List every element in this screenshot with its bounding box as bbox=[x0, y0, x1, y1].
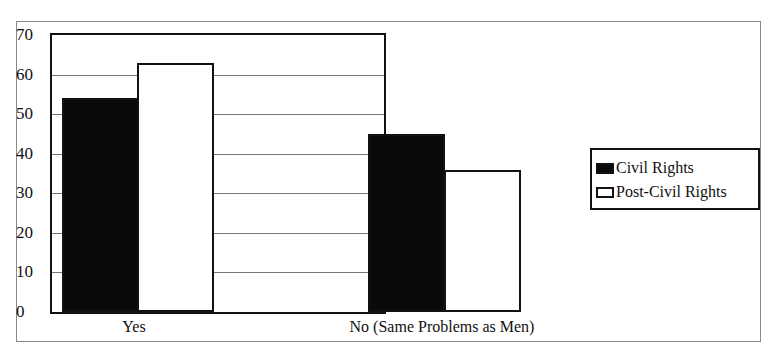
y-tick-label: 30 bbox=[16, 184, 46, 201]
legend: Civil Rights Post-Civil Rights bbox=[590, 148, 760, 210]
legend-swatch-post-civil-rights bbox=[596, 187, 614, 198]
y-tick-label: 40 bbox=[16, 145, 46, 162]
gridline bbox=[52, 75, 384, 76]
legend-item-civil-rights: Civil Rights bbox=[596, 156, 758, 180]
y-tick-label: 60 bbox=[16, 66, 46, 83]
x-tick-label: Yes bbox=[0, 318, 284, 336]
x-tick-label: No (Same Problems as Men) bbox=[292, 318, 592, 336]
bar-civil-rights bbox=[62, 98, 139, 312]
y-tick-label: 50 bbox=[16, 105, 46, 122]
y-tick-label: 70 bbox=[16, 26, 46, 43]
y-tick-label: 10 bbox=[16, 263, 46, 280]
legend-item-post-civil-rights: Post-Civil Rights bbox=[596, 180, 758, 204]
bar-post-civil-rights bbox=[137, 63, 214, 312]
legend-label: Civil Rights bbox=[616, 159, 694, 177]
bar-post-civil-rights bbox=[444, 170, 521, 312]
bar-civil-rights bbox=[368, 134, 445, 312]
legend-swatch-civil-rights bbox=[596, 163, 614, 174]
y-tick-label: 20 bbox=[16, 224, 46, 241]
plot-area bbox=[50, 33, 386, 314]
legend-label: Post-Civil Rights bbox=[616, 183, 727, 201]
